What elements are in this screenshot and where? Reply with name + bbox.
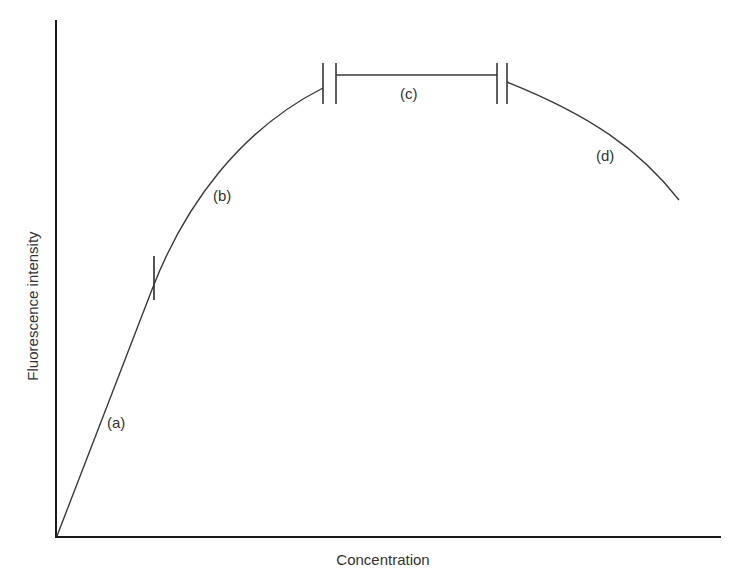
curve-segment-d — [507, 82, 679, 200]
y-axis-title: Fluorescence intensity — [24, 231, 41, 381]
curve-segment-b — [153, 88, 323, 287]
x-axis-title: Concentration — [336, 551, 429, 568]
label-region-b: (b) — [213, 187, 231, 204]
label-region-d: (d) — [596, 147, 614, 164]
curve-segment-a — [57, 287, 153, 536]
label-region-c: (c) — [400, 85, 418, 102]
chart-canvas: (a) (b) (c) (d) Concentration Fluorescen… — [0, 0, 739, 578]
label-region-a: (a) — [107, 414, 125, 431]
